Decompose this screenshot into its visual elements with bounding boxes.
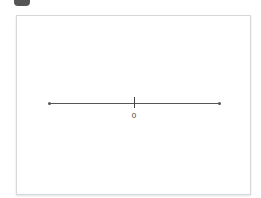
left-endpoint-dot[interactable] (48, 102, 51, 105)
zero-tick-mark (134, 97, 135, 108)
header-tab[interactable] (14, 0, 30, 6)
zero-tick-label: 0 (128, 111, 140, 120)
right-endpoint-dot[interactable] (218, 102, 221, 105)
